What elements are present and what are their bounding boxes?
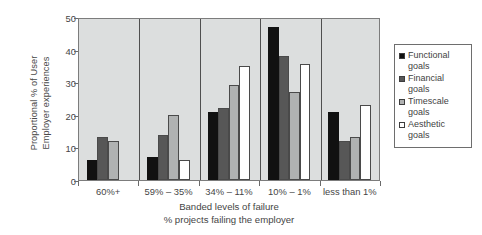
bar — [179, 160, 190, 180]
y-axis-tick-label: 0 — [42, 176, 76, 187]
y-axis-tick-label: 30 — [42, 78, 76, 89]
legend-label: Timescale goals — [408, 96, 467, 118]
legend-item[interactable]: Financial goals — [399, 73, 467, 95]
x-axis-tick-label: 59% – 35% — [145, 186, 193, 197]
bar-chart-figure: Proportional % of User Employer experien… — [0, 0, 482, 235]
bar — [328, 112, 339, 180]
legend-item[interactable]: Timescale goals — [399, 96, 467, 118]
chart-legend: Functional goalsFinancial goalsTimescale… — [394, 44, 472, 148]
bar — [87, 160, 98, 180]
x-axis-tick-mark — [380, 181, 381, 186]
x-axis-tick-mark — [199, 181, 200, 186]
x-axis-tick-mark — [138, 181, 139, 186]
legend-label: Financial goals — [408, 73, 467, 95]
group-divider — [200, 19, 201, 180]
legend-label: Functional goals — [408, 50, 467, 72]
legend-item[interactable]: Aesthetic goals — [399, 119, 467, 141]
group-divider — [260, 19, 261, 180]
legend-swatch-icon — [399, 76, 405, 82]
x-axis-tick-label: 10% – 1% — [268, 186, 311, 197]
bar — [229, 85, 240, 180]
bar — [239, 66, 250, 180]
y-axis-title-line1: Proportional % of User — [29, 56, 39, 151]
bar — [268, 27, 279, 180]
legend-item[interactable]: Functional goals — [399, 50, 467, 72]
bar — [158, 135, 169, 180]
y-axis-tick-label: 40 — [42, 45, 76, 56]
legend-label: Aesthetic goals — [408, 119, 467, 141]
plot-area — [78, 18, 380, 181]
legend-swatch-icon — [399, 122, 405, 128]
x-axis-tick-mark — [78, 181, 79, 186]
bar — [360, 105, 371, 180]
bar — [350, 137, 361, 180]
bar — [218, 108, 229, 180]
x-axis-tick-mark — [320, 181, 321, 186]
bar — [168, 115, 179, 180]
bar — [279, 56, 290, 180]
bar — [208, 112, 219, 180]
bar — [97, 137, 108, 180]
x-axis-title-line1: Banded levels of failure — [78, 201, 380, 212]
y-axis-tick-label: 50 — [42, 13, 76, 24]
y-axis-tick-label: 20 — [42, 110, 76, 121]
group-divider — [321, 19, 322, 180]
y-axis-tick-label: 10 — [42, 143, 76, 154]
x-axis-tick-label: 34% – 11% — [205, 186, 252, 197]
legend-swatch-icon — [399, 99, 405, 105]
x-axis-tick-label: 60%+ — [96, 186, 120, 197]
y-axis-title-line2: Employer experiences — [41, 57, 51, 150]
bar — [339, 141, 350, 180]
bar — [300, 64, 311, 180]
bar — [289, 92, 300, 180]
x-axis-title-line2: % projects failing the employer — [78, 214, 380, 225]
bar — [108, 141, 119, 180]
x-axis-tick-mark — [259, 181, 260, 186]
x-axis-tick-label: less than 1% — [323, 186, 377, 197]
bar — [147, 157, 158, 180]
group-divider — [139, 19, 140, 180]
legend-swatch-icon — [399, 53, 405, 59]
